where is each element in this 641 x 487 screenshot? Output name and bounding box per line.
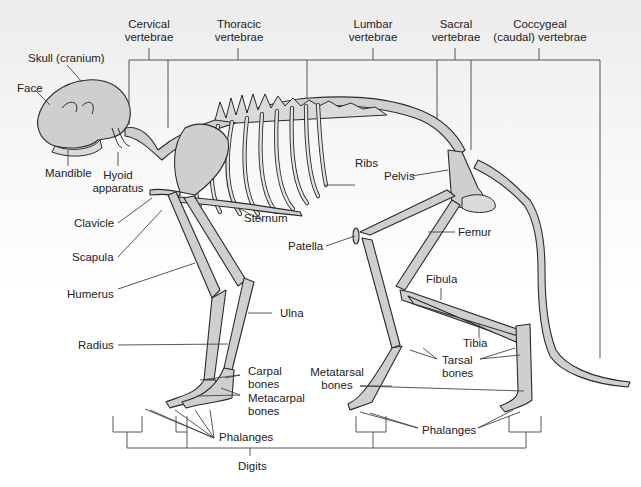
label-hyoid: Hyoid apparatus [88,169,148,195]
label-mandible: Mandible [45,167,92,180]
label-metatarsal: Metatarsal bones [306,366,368,392]
label-coccygeal-line1: Coccygeal [488,18,592,31]
label-lumbar-line2: vertebrae [345,31,401,44]
label-pelvis: Pelvis [384,170,415,183]
label-sacral-line1: Sacral [428,18,484,31]
label-radius: Radius [78,339,114,352]
label-tibia: Tibia [463,337,488,350]
label-cervical-line2: vertebrae [122,31,176,44]
label-thoracic: Thoracic vertebrae [211,18,267,44]
label-lumbar: Lumbar vertebrae [345,18,401,44]
label-metatarsal-line2: bones [306,379,368,392]
label-cervical: Cervical vertebrae [122,18,176,44]
label-digits: Digits [238,460,267,473]
label-sacral: Sacral vertebrae [428,18,484,44]
label-patella: Patella [288,240,323,253]
label-fibula: Fibula [426,273,457,286]
label-tarsal-line2: bones [442,367,473,380]
label-metacarpal-line1: Metacarpal [248,392,305,405]
label-humerus: Humerus [67,288,114,301]
label-sacral-line2: vertebrae [428,31,484,44]
label-tarsal: Tarsal bones [442,354,473,380]
label-metacarpal-line2: bones [248,405,305,418]
label-hyoid-line1: Hyoid [88,169,148,182]
label-carpal: Carpal bones [248,365,282,391]
label-phalanges-front: Phalanges [219,431,273,444]
label-tarsal-line1: Tarsal [442,354,473,367]
label-thoracic-line2: vertebrae [211,31,267,44]
label-face: Face [17,82,43,95]
label-sternum: Sternum [244,212,287,225]
label-phalanges-hind: Phalanges [422,424,476,437]
tail-vertebrae [474,160,630,387]
label-scapula: Scapula [72,251,114,264]
label-femur: Femur [458,226,491,239]
label-metatarsal-line1: Metatarsal [306,366,368,379]
label-ulna: Ulna [280,307,304,320]
scapula-bone [175,124,229,195]
label-lumbar-line1: Lumbar [345,18,401,31]
label-carpal-line1: Carpal [248,365,282,378]
skull [38,80,131,156]
label-cervical-line1: Cervical [122,18,176,31]
label-thoracic-line1: Thoracic [211,18,267,31]
label-coccygeal: Coccygeal (caudal) vertebrae [488,18,592,44]
label-coccygeal-line2: (caudal) vertebrae [488,31,592,44]
label-skull: Skull (cranium) [28,52,105,65]
label-carpal-line2: bones [248,378,282,391]
label-metacarpal: Metacarpal bones [248,392,305,418]
label-ribs: Ribs [355,157,378,170]
label-clavicle: Clavicle [74,217,114,230]
front-legs [166,192,254,408]
label-hyoid-line2: apparatus [88,182,148,195]
